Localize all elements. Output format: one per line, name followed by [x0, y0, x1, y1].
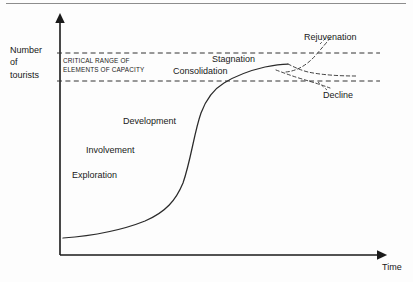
stage-label-involvement: Involvement — [86, 145, 135, 156]
stabilization-branch-line — [288, 64, 356, 76]
y-axis-label: Number of tourists — [10, 44, 42, 81]
critical-range-line-2: ELEMENTS OF CAPACITY — [63, 65, 144, 74]
y-axis-label-line-2: of — [10, 56, 42, 68]
y-axis-label-line-1: Number — [10, 44, 42, 56]
critical-range-line-1: CRITICAL RANGE OF — [63, 56, 144, 65]
decline-leader-line — [318, 82, 327, 90]
stage-label-rejuvenation: Rejuvenation — [304, 32, 357, 43]
stage-label-decline: Decline — [323, 90, 353, 101]
critical-range-annotation: CRITICAL RANGE OF ELEMENTS OF CAPACITY — [63, 56, 144, 75]
stage-label-exploration: Exploration — [72, 170, 117, 181]
stage-label-development: Development — [123, 116, 176, 127]
talc-diagram: Number of tourists Time CRITICAL RANGE O… — [0, 0, 413, 282]
stage-label-consolidation: Consolidation — [173, 66, 228, 77]
x-axis-label: Time — [382, 262, 402, 273]
stage-label-stagnation: Stagnation — [212, 54, 255, 65]
y-axis-label-line-3: tourists — [10, 69, 42, 81]
